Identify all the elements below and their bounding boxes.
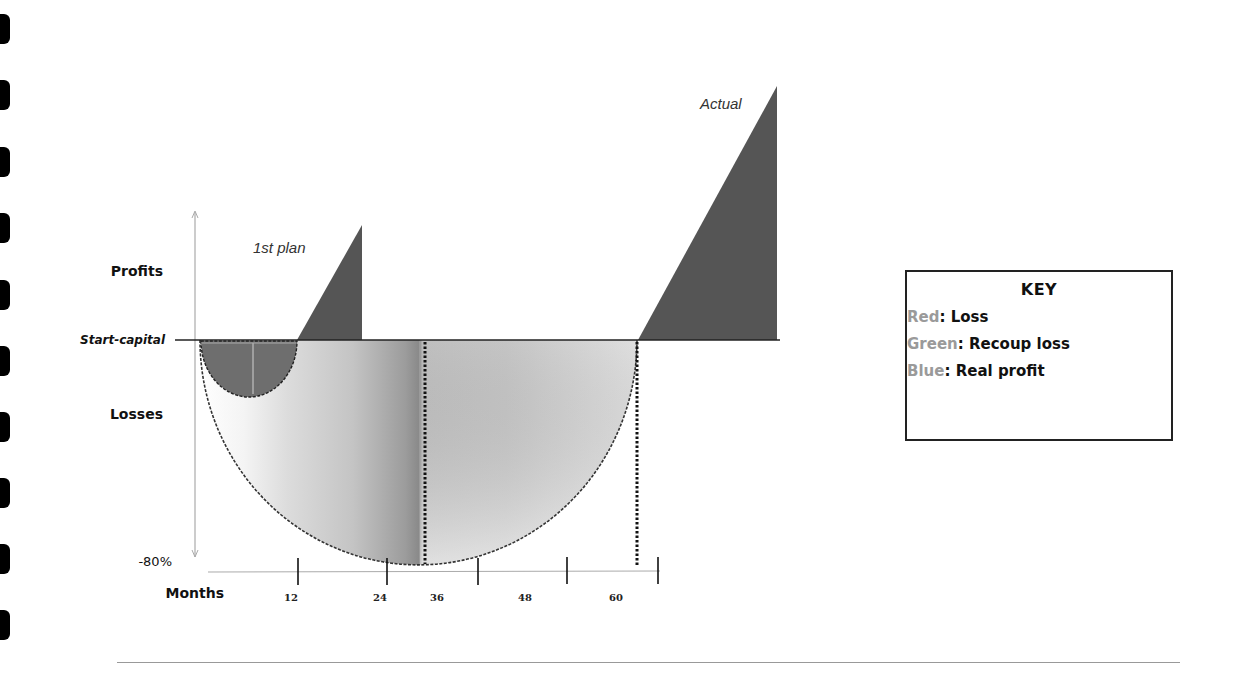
key-meaning: Recoup loss [969,335,1070,353]
min-loss-label: -80% [138,554,172,569]
start-capital-label: Start-capital [80,333,166,347]
key-meaning: Loss [951,308,989,326]
key-entry-blue: Blue: Real profit [907,360,1171,382]
profits-label: Profits [111,263,163,279]
key-meaning: Real profit [956,362,1045,380]
key-sep: : [944,362,955,380]
tick-label-36: 36 [430,592,444,603]
tick-label-12: 12 [284,592,298,603]
y-axis [192,211,198,557]
tick-label-60: 60 [609,592,623,603]
first-plan-label: 1st plan [253,239,306,256]
tick-label-48: 48 [518,592,532,603]
key-sep: : [958,335,969,353]
legend-key-box: KEY Red: Loss Green: Recoup loss Blue: R… [905,270,1173,441]
key-sep: : [939,308,950,326]
bottom-divider [117,662,1180,663]
key-color-word: Blue [907,362,944,380]
tick-label-24: 24 [373,592,387,603]
key-color-word: Green [907,335,958,353]
key-color-word: Red [907,308,939,326]
key-title: KEY [907,280,1171,299]
key-entry-red: Red: Loss [907,306,1171,328]
losses-label: Losses [110,406,163,422]
recoup-shading [420,340,637,565]
actual-label: Actual [699,95,742,112]
months-label: Months [165,585,224,601]
key-entry-green: Green: Recoup loss [907,333,1171,355]
first-plan-profit-triangle [297,225,362,340]
actual-profit-triangle [638,86,777,340]
